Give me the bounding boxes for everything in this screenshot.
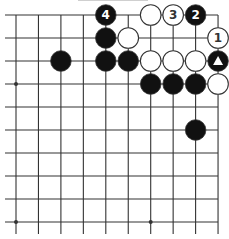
black-stone: [96, 51, 117, 72]
go-board: 4321: [0, 0, 229, 239]
stones: 4321: [51, 5, 229, 141]
move-number-label: 3: [169, 8, 177, 22]
move-number-label: 2: [191, 8, 199, 22]
star-point: [14, 220, 18, 224]
stone-circle: [140, 5, 161, 26]
white-stone: [140, 5, 161, 26]
black-stone: [96, 28, 117, 49]
star-point: [14, 82, 18, 86]
stone-circle: [185, 74, 206, 95]
stone-circle: [140, 51, 161, 72]
white-stone: [140, 51, 161, 72]
stone-circle: [185, 51, 206, 72]
grid-lines: [5, 15, 218, 234]
black-stone: [208, 51, 229, 72]
black-stone: 4: [96, 5, 117, 26]
white-stone: 3: [163, 5, 184, 26]
black-stone: 2: [185, 5, 206, 26]
white-stone: [208, 74, 229, 95]
stone-circle: [140, 74, 161, 95]
black-stone: [185, 120, 206, 141]
stone-circle: [185, 120, 206, 141]
stone-circle: [208, 74, 229, 95]
white-stone: [118, 28, 139, 49]
stone-circle: [51, 51, 72, 72]
black-stone: [140, 74, 161, 95]
black-stone: [163, 74, 184, 95]
stone-circle: [163, 51, 184, 72]
stone-circle: [163, 74, 184, 95]
move-number-label: 1: [214, 31, 222, 45]
stone-circle: [118, 28, 139, 49]
black-stone: [185, 74, 206, 95]
black-stone: [51, 51, 72, 72]
white-stone: 1: [208, 28, 229, 49]
stone-circle: [96, 51, 117, 72]
stone-circle: [96, 28, 117, 49]
white-stone: [185, 51, 206, 72]
black-stone: [118, 51, 139, 72]
move-number-label: 4: [102, 8, 110, 22]
stone-circle: [118, 51, 139, 72]
star-point: [149, 220, 153, 224]
white-stone: [163, 51, 184, 72]
